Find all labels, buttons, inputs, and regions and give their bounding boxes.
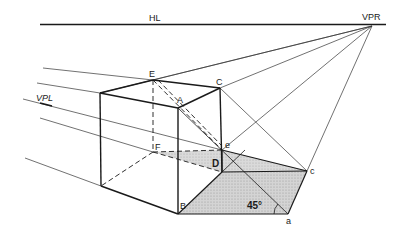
label-vertex-e: e — [225, 140, 230, 150]
label-vertex-D: D — [212, 158, 219, 169]
shaded-floor-back — [153, 150, 307, 172]
label-vertex-C: C — [216, 77, 223, 87]
perspective-diagram: HL VPR VPL E C A F e D B c a 45° — [0, 0, 403, 234]
shaded-square-base — [178, 171, 307, 214]
label-vertex-A: A — [177, 95, 183, 105]
label-vertex-a: a — [286, 216, 291, 226]
label-vertex-F: F — [155, 142, 161, 152]
vpl-arrow — [40, 103, 52, 106]
vpl-lines — [23, 68, 222, 186]
label-hl: HL — [149, 13, 161, 23]
label-vertex-B: B — [180, 201, 186, 211]
label-vpl: VPL — [36, 93, 53, 103]
label-vpr: VPR — [362, 12, 381, 22]
vpr-lines — [100, 26, 372, 171]
label-vertex-E: E — [149, 69, 155, 79]
label-vertex-c: c — [310, 166, 315, 176]
label-angle: 45° — [247, 200, 262, 211]
